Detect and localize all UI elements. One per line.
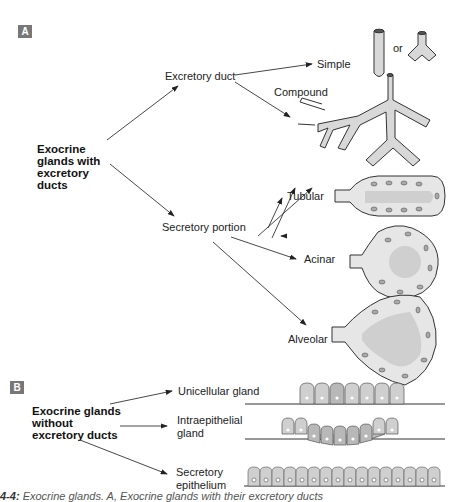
panel-a-root-label: Exocrine glands with excretory ducts — [37, 143, 119, 191]
acinar-gland-icon — [350, 226, 438, 299]
unicellular-gland-icon — [245, 383, 445, 404]
alveolar-label: Alveolar — [288, 333, 328, 346]
intraepithelial-label-2: gland — [177, 427, 204, 440]
secretory-epithelium-icon — [244, 467, 445, 486]
intraepithelial-gland-icon — [245, 418, 445, 445]
simple-duct-icons — [374, 29, 436, 76]
simple-label: Simple — [317, 58, 351, 71]
figure-caption: 4-4: Exocrine glands. A, Exocrine glands… — [0, 490, 323, 502]
secretory-epithelium-label: Secretory — [176, 466, 223, 479]
tubular-gland-icon — [335, 176, 445, 216]
tubular-label: Tubular — [287, 190, 324, 203]
panel-a-arrows — [107, 64, 312, 325]
excretory-duct-label: Excretory duct — [165, 70, 235, 83]
or-label: or — [393, 42, 403, 55]
compound-label: Compound — [274, 86, 328, 99]
figure-number: 4-4: — [0, 490, 20, 502]
secretory-portion-label: Secretory portion — [162, 221, 246, 234]
unicellular-gland-label: Unicellular gland — [178, 385, 259, 398]
alveolar-gland-icon — [332, 295, 436, 385]
acinar-label: Acinar — [304, 253, 335, 266]
figure-caption-text: Exocrine glands. A, Exocrine glands with… — [23, 490, 323, 502]
intraepithelial-label: Intraepithelial — [177, 414, 242, 427]
panel-b-root-label: Exocrine glands without excretory ducts — [32, 405, 124, 441]
panel-a-badge: A — [18, 25, 32, 38]
panel-b-badge: B — [10, 381, 24, 394]
